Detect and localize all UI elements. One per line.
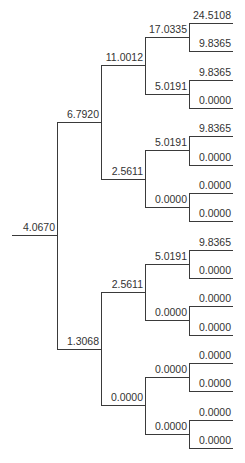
node-branch-line xyxy=(189,165,233,166)
node-branch-line xyxy=(189,278,233,279)
node-branch-line xyxy=(189,108,233,109)
node-branch-line xyxy=(145,264,189,265)
branch-connector xyxy=(189,136,190,164)
node-branch-line xyxy=(12,235,57,236)
branch-connector xyxy=(101,292,102,405)
node-value: 5.0191 xyxy=(145,250,187,262)
node-branch-line xyxy=(189,335,233,336)
node-branch-line xyxy=(189,23,233,24)
node-value: 0.0000 xyxy=(145,306,187,318)
node-value: 5.0191 xyxy=(145,80,187,92)
branch-connector xyxy=(189,250,190,278)
node-branch-line xyxy=(189,221,233,222)
leaf-node-value: 0.0000 xyxy=(189,179,231,191)
branch-connector xyxy=(101,65,102,178)
node-branch-line xyxy=(145,150,189,151)
node-value: 17.0335 xyxy=(145,23,187,35)
node-branch-line xyxy=(189,448,233,449)
node-branch-line xyxy=(189,306,233,307)
leaf-node-value: 24.5108 xyxy=(189,9,231,21)
node-branch-line xyxy=(189,51,233,52)
node-value: 1.3068 xyxy=(57,335,99,347)
leaf-node-value: 0.0000 xyxy=(189,207,231,219)
leaf-node-value: 9.8365 xyxy=(189,37,231,49)
node-value: 0.0000 xyxy=(145,193,187,205)
leaf-node-value: 0.0000 xyxy=(189,377,231,389)
node-branch-line xyxy=(145,434,189,435)
node-branch-line xyxy=(189,193,233,194)
node-branch-line xyxy=(145,37,189,38)
leaf-node-value: 0.0000 xyxy=(189,94,231,106)
node-branch-line xyxy=(189,391,233,392)
leaf-node-value: 0.0000 xyxy=(189,349,231,361)
node-value: 0.0000 xyxy=(145,420,187,432)
root-node-value: 4.0670 xyxy=(12,221,55,233)
node-branch-line xyxy=(101,405,145,406)
node-branch-line xyxy=(189,363,233,364)
node-branch-line xyxy=(189,250,233,251)
node-value: 0.0000 xyxy=(101,391,143,403)
node-value: 5.0191 xyxy=(145,136,187,148)
leaf-node-value: 0.0000 xyxy=(189,321,231,333)
node-branch-line xyxy=(145,207,189,208)
leaf-node-value: 0.0000 xyxy=(189,406,231,418)
node-branch-line xyxy=(101,65,145,66)
node-branch-line xyxy=(189,80,233,81)
branch-connector xyxy=(189,420,190,448)
branch-connector xyxy=(189,306,190,334)
node-branch-line xyxy=(145,94,189,95)
branch-connector xyxy=(189,363,190,391)
branch-connector xyxy=(57,122,58,349)
leaf-node-value: 0.0000 xyxy=(189,151,231,163)
node-branch-line xyxy=(57,122,101,123)
node-value: 6.7920 xyxy=(57,108,99,120)
node-value: 0.0000 xyxy=(145,363,187,375)
leaf-node-value: 9.8365 xyxy=(189,122,231,134)
branch-connector xyxy=(145,37,146,94)
node-branch-line xyxy=(145,377,189,378)
node-branch-line xyxy=(189,420,233,421)
node-value: 11.0012 xyxy=(101,51,143,63)
node-value: 2.5611 xyxy=(101,278,143,290)
leaf-node-value: 0.0000 xyxy=(189,264,231,276)
branch-connector xyxy=(145,150,146,207)
leaf-node-value: 0.0000 xyxy=(189,292,231,304)
leaf-node-value: 0.0000 xyxy=(189,434,231,446)
node-branch-line xyxy=(145,320,189,321)
node-branch-line xyxy=(101,292,145,293)
branch-connector xyxy=(145,377,146,434)
branch-connector xyxy=(189,193,190,221)
leaf-node-value: 9.8365 xyxy=(189,66,231,78)
branch-connector xyxy=(189,80,190,108)
branch-connector xyxy=(145,264,146,321)
binomial-tree-diagram: 24.51089.836517.03359.83650.00005.019111… xyxy=(0,0,245,463)
node-value: 2.5611 xyxy=(101,165,143,177)
node-branch-line xyxy=(57,349,101,350)
branch-connector xyxy=(189,23,190,51)
node-branch-line xyxy=(189,136,233,137)
leaf-node-value: 9.8365 xyxy=(189,236,231,248)
node-branch-line xyxy=(101,179,145,180)
